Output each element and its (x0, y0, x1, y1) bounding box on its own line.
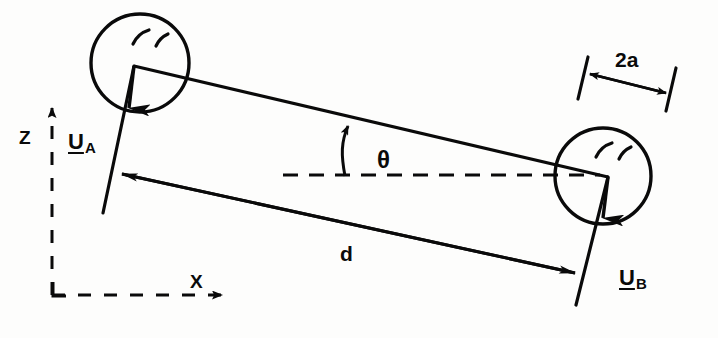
diameter-label: 2a (615, 49, 638, 70)
figure-container: Z X θ d 2a UA UB (0, 0, 718, 338)
velocity-b-label: UB (619, 267, 647, 291)
velocity-a-label: UA (68, 131, 96, 155)
body-a-circle (91, 14, 189, 112)
body-a-group (91, 14, 189, 213)
diameter-tick-right (666, 68, 676, 111)
body-b-spin-arc-inner (596, 143, 612, 157)
velocity-a-symbol: U (68, 129, 84, 154)
centerline-a-to-b (134, 66, 608, 177)
velocity-b-subscript: B (636, 275, 647, 292)
z-axis-label: Z (19, 128, 31, 147)
theta-label: θ (377, 148, 390, 172)
body-a-shaft (103, 66, 134, 213)
diameter-tick-left (578, 57, 588, 99)
body-b-spin-arc-outer (619, 147, 631, 159)
distance-label: d (340, 243, 353, 264)
velocity-b-symbol: U (619, 265, 635, 290)
body-a-spin-arc-inner (133, 30, 149, 44)
diameter-arrow-right (590, 74, 666, 93)
velocity-a-subscript: A (85, 139, 96, 156)
diagram-canvas (0, 0, 718, 338)
body-b-shaft (576, 177, 608, 305)
body-a-spin-arc-outer (156, 34, 168, 46)
theta-arc (342, 126, 348, 176)
x-axis-label: X (190, 272, 203, 291)
